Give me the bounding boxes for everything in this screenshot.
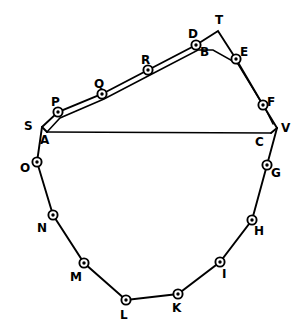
station-label-p: P: [51, 96, 60, 108]
traverse-diagram: ABCDEFGHIKLMNOPQRSTV: [0, 0, 303, 333]
station-label-l: L: [120, 309, 128, 321]
station-point-e: [234, 57, 237, 60]
station-label-c: C: [255, 136, 264, 148]
station-label-b: B: [200, 46, 209, 58]
station-point-d: [194, 43, 197, 46]
station-label-t: T: [215, 14, 223, 26]
station-label-g: G: [271, 167, 281, 179]
station-label-n: N: [37, 222, 47, 234]
station-point-r: [146, 68, 149, 71]
station-label-d: D: [188, 28, 198, 40]
station-markers: [32, 40, 271, 304]
station-label-i: I: [222, 268, 226, 280]
station-point-f: [261, 103, 264, 106]
station-label-m: M: [70, 271, 82, 283]
path-closure-S-A: [42, 127, 47, 132]
station-point-m: [82, 261, 85, 264]
path-inner-chord-A-C: [47, 132, 271, 133]
station-label-k: K: [172, 302, 181, 314]
station-label-v: V: [281, 122, 290, 134]
traverse-paths: [37, 31, 277, 300]
station-point-n: [51, 213, 54, 216]
station-label-e: E: [240, 46, 248, 58]
station-point-k: [176, 292, 179, 295]
station-point-q: [100, 92, 103, 95]
station-point-i: [218, 260, 221, 263]
station-label-h: H: [254, 225, 264, 237]
traverse-svg: [0, 0, 303, 333]
station-point-p: [56, 110, 59, 113]
station-label-s: S: [24, 120, 33, 132]
station-point-o: [35, 160, 38, 163]
station-label-f: F: [267, 96, 275, 108]
station-label-o: O: [20, 162, 30, 174]
station-point-l: [124, 298, 127, 301]
station-point-g: [265, 163, 268, 166]
station-label-q: Q: [94, 78, 104, 90]
station-label-r: R: [141, 54, 150, 66]
station-label-a: A: [40, 134, 49, 146]
station-point-h: [250, 218, 253, 221]
